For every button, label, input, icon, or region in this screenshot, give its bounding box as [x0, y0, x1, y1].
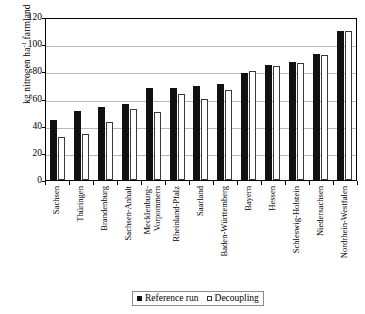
x-axis-tick-mark [93, 181, 94, 185]
bar-reference-run [74, 111, 81, 180]
bar-decoupling [225, 90, 232, 180]
bar-reference-run [313, 54, 320, 180]
x-axis-label-cell: Niedersachsen [309, 186, 333, 278]
chart-legend: Reference run Decoupling [132, 291, 264, 306]
bar-group [141, 19, 165, 180]
x-axis-tick-label: Sachsen [52, 186, 62, 278]
x-axis-tick-label: Thüringen [76, 186, 86, 278]
bar-reference-run [122, 104, 129, 180]
x-axis-tick-label: Mecklenburg- Vorpommern [143, 186, 162, 278]
x-axis-tick-mark [117, 181, 118, 185]
bar-group [213, 19, 237, 180]
bar-reference-run [170, 88, 177, 180]
bar-group [332, 19, 356, 180]
x-axis-labels: SachsenThüringenBrandenburgSachsen-Anhal… [45, 186, 357, 278]
x-axis-tick-mark [333, 181, 334, 185]
x-axis-label-cell: Brandenburg [93, 186, 117, 278]
bar-decoupling [106, 122, 113, 180]
bar-reference-run [289, 62, 296, 180]
x-axis-label-cell: Bayern [237, 186, 261, 278]
bar-decoupling [249, 71, 256, 180]
x-axis-tick-mark [261, 181, 262, 185]
x-axis-label-cell: Thüringen [69, 186, 93, 278]
x-axis-tick-mark [309, 181, 310, 185]
x-axis-label-cell: Sachsen [45, 186, 69, 278]
bar-decoupling [321, 55, 328, 180]
x-axis-label-cell: Rheinland-Pfalz [165, 186, 189, 278]
bar-group [308, 19, 332, 180]
bar-decoupling [154, 112, 161, 180]
legend-item-decoupling: Decoupling [207, 293, 259, 303]
bar-reference-run [146, 88, 153, 180]
legend-swatch-open-square-icon [207, 296, 212, 301]
x-axis-label-cell: Sachsen-Anhalt [117, 186, 141, 278]
x-axis-tick-mark [237, 181, 238, 185]
bar-decoupling [58, 137, 65, 180]
x-axis-tick-label: Brandenburg [100, 186, 110, 278]
bar-group [165, 19, 189, 180]
x-axis-ticks [45, 181, 357, 185]
y-axis-tick-label: 120 [2, 13, 42, 23]
bar-group [94, 19, 118, 180]
y-axis-tick-label: 40 [2, 122, 42, 132]
bar-group [237, 19, 261, 180]
x-axis-label-cell: Hessen [261, 186, 285, 278]
y-axis-tick-label: 80 [2, 68, 42, 78]
bar-group [284, 19, 308, 180]
x-axis-tick-mark [69, 181, 70, 185]
bar-reference-run [337, 31, 344, 180]
x-axis-tick-label: Niedersachsen [316, 186, 326, 278]
x-axis-tick-mark [357, 181, 358, 185]
x-axis-tick-label: Bayern [244, 186, 254, 278]
x-axis-tick-label: Rheinland-Pfalz [172, 186, 182, 278]
bar-reference-run [98, 107, 105, 180]
x-axis-tick-mark [165, 181, 166, 185]
x-axis-label-cell: Baden-Württemberg [213, 186, 237, 278]
x-axis-label-cell: Saarland [189, 186, 213, 278]
bar-reference-run [265, 65, 272, 180]
y-axis-title-post: farmland [22, 4, 32, 42]
bar-groups [46, 19, 356, 180]
bar-decoupling [345, 31, 352, 180]
x-axis-label-cell: Mecklenburg- Vorpommern [141, 186, 165, 278]
x-axis-tick-mark [213, 181, 214, 185]
x-axis-tick-label: Schleswig-Holstein [292, 186, 302, 278]
x-axis-label-cell: Schleswig-Holstein [285, 186, 309, 278]
x-axis-tick-label: Hessen [268, 186, 278, 278]
bar-decoupling [82, 134, 89, 180]
legend-label-reference-run: Reference run [145, 293, 199, 303]
bar-group [118, 19, 142, 180]
bar-group [46, 19, 70, 180]
bar-group [189, 19, 213, 180]
x-axis-tick-mark [285, 181, 286, 185]
x-axis-tick-mark [45, 181, 46, 185]
bar-reference-run [50, 120, 57, 180]
bar-decoupling [178, 94, 185, 180]
bar-reference-run [241, 73, 248, 180]
bar-decoupling [273, 66, 280, 180]
bar-decoupling [201, 99, 208, 181]
x-axis-tick-mark [141, 181, 142, 185]
x-axis-tick-label: Baden-Württemberg [220, 186, 230, 278]
y-axis-tick-label: 60 [2, 95, 42, 105]
legend-label-decoupling: Decoupling [215, 293, 259, 303]
bar-decoupling [297, 63, 304, 180]
x-axis-tick-mark [189, 181, 190, 185]
y-axis-tick-label: 100 [2, 40, 42, 50]
legend-item-reference-run: Reference run [137, 293, 199, 303]
x-axis-label-cell: Nordrhein-Westfalen [333, 186, 357, 278]
x-axis-tick-label: Saarland [196, 186, 206, 278]
plot-area [45, 18, 357, 181]
bar-reference-run [193, 86, 200, 180]
y-axis-tick-label: 20 [2, 149, 42, 159]
nitrogen-bar-chart: kg nitrogen ha-1 farmland 02040608010012… [0, 0, 365, 314]
y-axis-tick-label: 0 [2, 176, 42, 186]
legend-swatch-filled-square-icon [137, 296, 142, 301]
x-axis-tick-label: Sachsen-Anhalt [124, 186, 134, 278]
bar-group [261, 19, 285, 180]
bar-reference-run [217, 84, 224, 180]
bar-decoupling [130, 109, 137, 180]
bar-group [70, 19, 94, 180]
x-axis-tick-label: Nordrhein-Westfalen [340, 186, 350, 278]
